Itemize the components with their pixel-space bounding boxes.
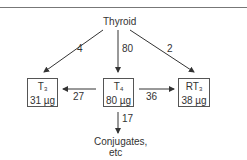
edge-t4-t3-value: 27: [73, 91, 84, 102]
edge-t4-rt3-value: 36: [146, 91, 157, 102]
sink-line1: Conjugates,: [94, 136, 147, 147]
node-rt3-amount: 38 µg: [179, 95, 209, 106]
sink-line2: etc: [109, 147, 122, 158]
node-t3: T3 31 µg: [27, 78, 58, 107]
node-t3-amount: 31 µg: [28, 95, 57, 106]
node-rt3-name: RT3: [179, 81, 209, 95]
edge-thyroid-rt3-value: 2: [167, 43, 173, 54]
node-t4-name: T4: [104, 81, 133, 95]
edge-t4-conjugates-value: 17: [122, 113, 133, 124]
thyroid-label: Thyroid: [103, 16, 136, 27]
edge-thyroid-t3-value: 4: [77, 43, 83, 54]
node-t3-name: T3: [28, 81, 57, 95]
node-t4-amount: 80 µg: [104, 95, 133, 106]
node-t4: T4 80 µg: [103, 78, 134, 107]
edge-thyroid-t4-value: 80: [122, 43, 133, 54]
node-rt3: RT3 38 µg: [178, 78, 210, 107]
